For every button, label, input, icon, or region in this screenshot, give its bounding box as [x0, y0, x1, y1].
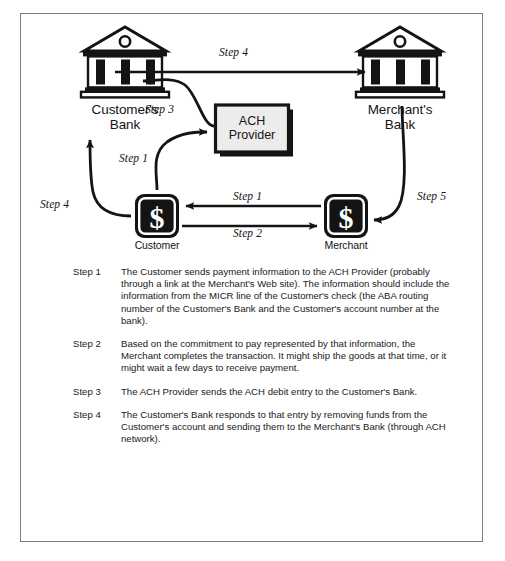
- arrow-step1-to-ach: [156, 132, 207, 190]
- arrow-label-step1-to-ach: Step 1: [119, 152, 148, 164]
- step-description: The Customer sends payment information t…: [121, 266, 484, 327]
- step-description: The ACH Provider sends the ACH debit ent…: [121, 386, 484, 398]
- node-label-merchant: Merchant: [291, 240, 401, 252]
- arrow-label-step4-top: Step 4: [219, 46, 248, 58]
- bank-icon-merchants-bank: [356, 27, 444, 97]
- step-item: Step 1 The Customer sends payment inform…: [21, 266, 484, 327]
- step-item: Step 2 Based on the commitment to pay re…: [21, 338, 484, 375]
- dollar-icon-customer: $: [135, 194, 179, 238]
- figure-frame: $ $ Cust: [20, 13, 483, 542]
- bank-icon-customers-bank: [81, 27, 169, 97]
- diagram-area: $ $ Cust: [21, 14, 484, 264]
- arrow-label-step3: Step 3: [145, 103, 174, 115]
- step-item: Step 4 The Customer's Bank responds to t…: [21, 409, 484, 446]
- svg-text:$: $: [150, 201, 165, 234]
- svg-text:$: $: [339, 201, 354, 234]
- step-key: Step 4: [73, 409, 121, 421]
- node-label-customer: Customer: [102, 240, 212, 252]
- step-key: Step 3: [73, 386, 121, 398]
- step-key: Step 1: [73, 266, 121, 278]
- arrow-label-step2-mid: Step 2: [233, 227, 262, 239]
- step-description: The Customer's Bank responds to that ent…: [121, 409, 484, 446]
- arrow-label-step4-left: Step 4: [40, 198, 69, 210]
- step-key: Step 2: [73, 338, 121, 350]
- arrow-label-step1-mid: Step 1: [233, 190, 262, 202]
- steps-list: Step 1 The Customer sends payment inform…: [21, 266, 484, 456]
- step-item: Step 3 The ACH Provider sends the ACH de…: [21, 386, 484, 398]
- node-label-ach-provider: ACH Provider: [215, 114, 289, 143]
- step-description: Based on the commitment to pay represent…: [121, 338, 484, 375]
- dollar-icon-merchant: $: [324, 194, 368, 238]
- node-label-merchants-bank: Merchant's Bank: [340, 102, 460, 132]
- arrow-label-step5: Step 5: [417, 190, 446, 202]
